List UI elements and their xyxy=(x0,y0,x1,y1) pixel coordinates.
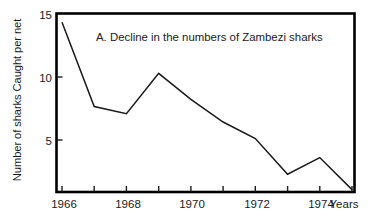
x-tick-label-1970: 1970 xyxy=(179,198,205,210)
y-axis-label: Number of sharks Caught per net xyxy=(11,19,23,181)
x-tick-label-1968: 1968 xyxy=(115,198,141,210)
y-tick-label-5: 5 xyxy=(46,135,52,147)
x-tick-label-group: 1966 1968 1970 1972 1974 xyxy=(51,198,334,210)
y-tick-label-15: 15 xyxy=(39,9,52,21)
x-tick-label-1966: 1966 xyxy=(51,198,77,210)
chart-title: A. Decline in the numbers of Zambezi sha… xyxy=(96,31,323,43)
x-tick-label-1972: 1972 xyxy=(244,198,270,210)
line-chart: 15 10 5 1966 1968 1970 1972 1974 Years xyxy=(0,0,373,224)
chart-figure: 15 10 5 1966 1968 1970 1972 1974 Years xyxy=(0,0,373,224)
y-tick-label-10: 10 xyxy=(39,72,52,84)
y-axis-label-container: Number of sharks Caught per net xyxy=(0,0,34,200)
y-tick-label-group: 15 10 5 xyxy=(39,9,52,147)
x-axis-caption: Years xyxy=(330,198,359,210)
